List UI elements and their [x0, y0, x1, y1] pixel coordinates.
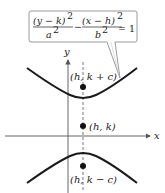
- eq-den-left: a: [46, 29, 52, 40]
- y-axis-label: y: [63, 46, 70, 57]
- eq-den-left-exp: 2: [53, 24, 59, 35]
- eq-equals: = 1: [118, 23, 135, 34]
- center-label: (h, k): [89, 121, 116, 132]
- svg-text:(y − k): (y − k): [33, 15, 66, 26]
- x-axis-label: x: [154, 130, 160, 141]
- eq-num-right: (x − h): [82, 15, 115, 26]
- center-point: [80, 123, 86, 129]
- eq-den-right-exp: 2: [102, 24, 108, 35]
- eq-num-left-exp: 2: [67, 10, 73, 21]
- eq-num-left: (y − k): [33, 15, 66, 26]
- eq-den-right: b: [95, 29, 101, 40]
- eq-minus: −: [74, 21, 82, 32]
- focus-upper-label: (h, k + c): [70, 71, 117, 82]
- hyperbola-diagram: x y (h, k + c) (h, k) (h, k − c) (y − k)…: [0, 0, 165, 193]
- focus-lower-label: (h, k − c): [70, 174, 117, 185]
- focus-upper-point: [80, 84, 86, 90]
- focus-lower-point: [80, 163, 86, 169]
- eq-num-right-exp: 2: [117, 10, 123, 21]
